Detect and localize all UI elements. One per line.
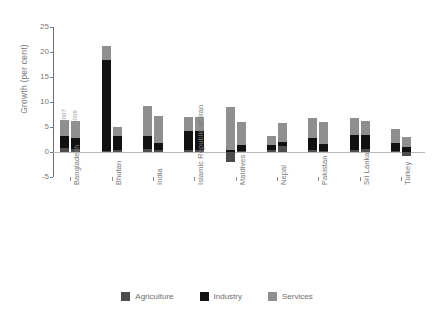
bar-segment-agriculture	[102, 151, 111, 153]
bar-segment-industry	[361, 135, 370, 149]
bar-segment-agriculture	[113, 150, 122, 152]
stacked-bar[interactable]	[402, 27, 411, 177]
bar-segment-agriculture	[60, 148, 69, 152]
stacked-bar[interactable]	[350, 27, 359, 177]
bar-segment-services	[402, 137, 411, 147]
bar-group	[136, 27, 177, 177]
bar-segment-industry	[237, 145, 246, 151]
legend-label: Agriculture	[135, 292, 173, 301]
bar-segment-services	[278, 123, 287, 142]
bar-segment-industry	[102, 60, 111, 151]
bar-segment-services	[113, 127, 122, 136]
y-axis-tick-label: 5	[45, 123, 49, 131]
x-axis-category-label: Pakistan	[321, 155, 329, 185]
y-axis-tick-mark	[50, 177, 53, 178]
stacked-bar[interactable]	[143, 27, 152, 177]
x-axis-tick-mark	[360, 177, 361, 181]
stacked-bar[interactable]	[267, 27, 276, 177]
bar-segment-services	[226, 107, 235, 150]
bar-segment-services	[361, 121, 370, 136]
x-axis-tick-mark	[277, 177, 278, 181]
stacked-bar[interactable]	[102, 27, 111, 177]
legend-label: Services	[282, 292, 313, 301]
bar-segment-services	[154, 116, 163, 143]
chart-legend: AgricultureIndustryServices	[0, 292, 434, 301]
x-axis-category-label: Turkey	[404, 162, 412, 185]
bar-segment-services	[319, 122, 328, 144]
bar-segment-agriculture	[350, 150, 359, 153]
bar-segment-agriculture	[319, 151, 328, 153]
bar-segment-agriculture	[237, 151, 246, 153]
bar-segment-agriculture	[267, 150, 276, 152]
stacked-bar[interactable]	[308, 27, 317, 177]
bar-segment-industry	[184, 131, 193, 150]
legend-swatch-icon	[121, 292, 130, 301]
chart-container: Growth (per cent) 2520151050-520072008Ba…	[0, 0, 434, 332]
bar-segment-agriculture	[308, 150, 317, 152]
y-axis-tick-label: 20	[40, 48, 49, 56]
bar-segment-industry	[391, 143, 400, 151]
bar-segment-services	[143, 106, 152, 137]
bar-segment-agriculture	[391, 151, 400, 152]
legend-swatch-icon	[268, 292, 277, 301]
bar-segment-industry	[319, 144, 328, 151]
stacked-bar[interactable]	[113, 27, 122, 177]
x-axis-tick-mark	[112, 177, 113, 181]
bar-segment-industry	[143, 136, 152, 149]
bar-segment-services	[391, 129, 400, 144]
stacked-bar[interactable]	[226, 27, 235, 177]
bar-segment-industry	[278, 142, 287, 146]
bar-segment-industry	[402, 147, 411, 152]
bar-segment-services	[350, 118, 359, 135]
x-axis-category-label: India	[156, 168, 164, 185]
bar-segment-services	[237, 122, 246, 145]
x-axis-category-label: Islamic Republic of Iran	[197, 105, 205, 185]
bar-segment-industry	[267, 145, 276, 151]
legend-item[interactable]: Industry	[200, 292, 242, 301]
x-axis-tick-mark	[153, 177, 154, 181]
x-axis-category-label: Nepal	[280, 165, 288, 185]
bar-group	[260, 27, 301, 177]
stacked-bar[interactable]	[184, 27, 193, 177]
stacked-bar[interactable]	[278, 27, 287, 177]
bar-segment-industry	[113, 136, 122, 150]
stacked-bar[interactable]	[60, 27, 69, 177]
x-axis-category-label: Maldives	[239, 155, 247, 185]
y-axis-tick-label: -5	[42, 173, 49, 181]
plot-area: 2520151050-520072008BangladeshBhutanIndi…	[53, 27, 425, 177]
bar-segment-industry	[226, 150, 235, 153]
bar-segment-services	[308, 118, 317, 138]
bar-segment-services	[184, 117, 193, 131]
bar-segment-industry	[154, 143, 163, 150]
stacked-bar[interactable]	[391, 27, 400, 177]
x-axis-tick-mark	[401, 177, 402, 181]
legend-label: Industry	[214, 292, 242, 301]
legend-item[interactable]: Agriculture	[121, 292, 173, 301]
bar-year-label: 2008	[72, 109, 78, 123]
bar-segment-services	[267, 136, 276, 145]
bar-year-label: 2007	[61, 108, 67, 122]
bar-segment-industry	[350, 135, 359, 150]
bar-segment-agriculture	[402, 152, 411, 156]
y-axis-label: Growth (per cent)	[19, 24, 29, 134]
y-axis-tick-label: 15	[40, 73, 49, 81]
bar-group	[384, 27, 425, 177]
x-axis-category-label: Bhutan	[115, 161, 123, 185]
legend-swatch-icon	[200, 292, 209, 301]
stacked-bar[interactable]	[154, 27, 163, 177]
bar-segment-industry	[308, 138, 317, 150]
bar-segment-agriculture	[184, 150, 193, 153]
y-axis-tick-label: 10	[40, 98, 49, 106]
bar-segment-agriculture	[143, 149, 152, 152]
bar-group	[94, 27, 135, 177]
bar-segment-services	[102, 46, 111, 60]
bar-segment-agriculture	[154, 150, 163, 153]
bar-segment-agriculture	[278, 146, 287, 153]
x-axis-category-label: Sri Lanka	[363, 152, 371, 185]
x-axis-category-label: Bangladesh	[73, 144, 81, 185]
bar-segment-industry	[60, 136, 69, 148]
bar-segment-agriculture	[226, 152, 235, 162]
legend-item[interactable]: Services	[268, 292, 313, 301]
y-axis-tick-label: 25	[40, 23, 49, 31]
x-axis-tick-mark	[236, 177, 237, 181]
